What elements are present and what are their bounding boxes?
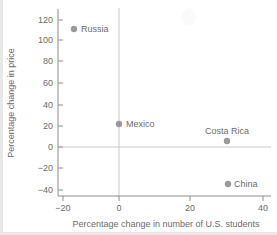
data-point-russia[interactable] [71,26,77,32]
y-tick-label-0: 0 [48,142,53,152]
data-point-label-russia: Russia [81,24,109,34]
y-tick-label-neg40: −40 [38,185,53,195]
x-tick-label-40: 40 [258,203,268,213]
data-point-label-mexico: Mexico [126,119,155,129]
x-tick-label-20: 20 [185,203,195,213]
y-tick-label-60: 60 [43,78,53,88]
y-tick-label-20: 20 [43,121,53,131]
x-tick-label-0: 0 [116,203,121,213]
data-point-label-china: China [234,179,258,189]
y-axis-title: Percentage change in price [6,48,16,158]
data-point-mexico[interactable] [116,121,122,127]
y-tick-label-100: 100 [38,35,53,45]
x-axis-title: Percentage change in number of U.S. stud… [72,219,260,229]
y-tick-label-120: 120 [38,15,53,25]
data-point-costa-rica[interactable] [224,138,230,144]
scatter-chart: 120 100 80 60 40 20 0 −20 −40 −20 0 20 4… [0,0,277,235]
y-tick-label-40: 40 [43,100,53,110]
y-tick-label-neg20: −20 [38,163,53,173]
data-point-label-costa-rica: Costa Rica [205,126,249,136]
data-point-china[interactable] [225,181,231,187]
plot-area: 120 100 80 60 40 20 0 −20 −40 −20 0 20 4… [0,0,277,235]
x-tick-label-neg20: −20 [55,203,70,213]
y-tick-label-80: 80 [43,56,53,66]
